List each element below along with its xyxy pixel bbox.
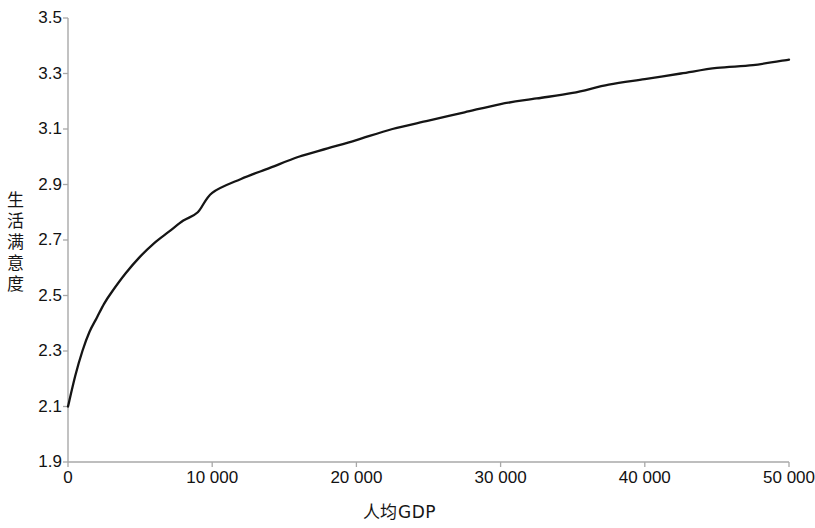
data-series-line [68,60,789,407]
axis-lines [68,18,789,462]
x-tick-label: 20 000 [330,468,382,488]
x-axis-ticks [68,462,789,467]
x-tick-label: 50 000 [763,468,815,488]
x-tick-label: 40 000 [619,468,671,488]
x-tick-label: 0 [63,468,72,488]
x-axis-tick-labels: 010 00020 00030 00040 00050 000 [0,468,799,498]
x-tick-label: 30 000 [475,468,527,488]
x-tick-label: 10 000 [186,468,238,488]
x-axis-title: 人均GDP [0,498,799,523]
y-axis-ticks [63,18,68,462]
